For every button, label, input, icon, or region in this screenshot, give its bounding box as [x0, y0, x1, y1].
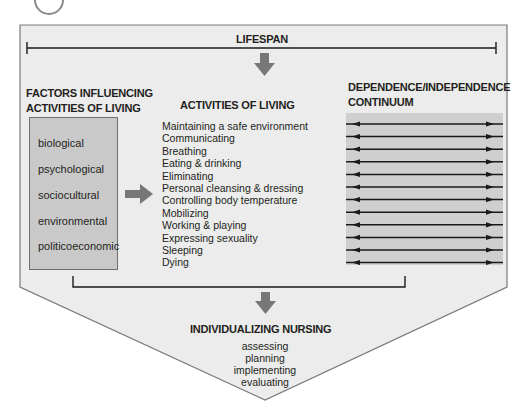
factors-box: biological psychological sociocultural e… — [29, 117, 118, 270]
lifespan-label: LIFESPAN — [236, 32, 288, 47]
activity-item: Eliminating — [162, 170, 308, 182]
activity-item: Controlling body temperature — [162, 194, 308, 206]
activity-item: Breathing — [162, 145, 308, 157]
activity-item: Mobilizing — [162, 207, 308, 219]
continuum-arrows — [346, 113, 503, 265]
nursing-step: planning — [200, 352, 330, 364]
double-arrow-icon — [346, 134, 503, 139]
double-arrow-icon — [346, 260, 503, 265]
nursing-step: assessing — [200, 340, 330, 352]
continuum-heading-line1: DEPENDENCE/INDEPENDENCE — [348, 80, 510, 95]
factors-heading-line1: FACTORS INFLUENCING — [26, 86, 153, 101]
activity-item: Communicating — [162, 132, 308, 144]
double-arrow-icon — [346, 121, 503, 126]
factors-heading-line2: ACTIVITIES OF LIVING — [26, 101, 153, 116]
factors-heading: FACTORS INFLUENCING ACTIVITIES OF LIVING — [26, 86, 153, 116]
double-arrow-icon — [346, 197, 503, 202]
double-arrow-icon — [346, 222, 503, 227]
nursing-steps: assessing planning implementing evaluati… — [200, 340, 330, 388]
double-arrow-icon — [346, 159, 503, 164]
activity-item: Sleeping — [162, 244, 308, 256]
double-arrow-icon — [346, 172, 503, 177]
factor-item: biological — [38, 137, 84, 149]
double-arrow-icon — [346, 247, 503, 252]
activity-item: Personal cleansing & dressing — [162, 182, 308, 194]
factor-item: politicoeconomic — [38, 240, 119, 252]
nursing-step: evaluating — [200, 376, 330, 388]
continuum-heading-line2: CONTINUUM — [348, 95, 510, 110]
activity-item: Maintaining a safe environment — [162, 120, 308, 132]
continuum-heading: DEPENDENCE/INDEPENDENCE CONTINUUM — [348, 80, 510, 110]
activity-item: Expressing sexuality — [162, 232, 308, 244]
nursing-heading: INDIVIDUALIZING NURSING — [190, 322, 331, 337]
nursing-step: implementing — [200, 364, 330, 376]
double-arrow-icon — [346, 184, 503, 189]
activity-item: Eating & drinking — [162, 157, 308, 169]
double-arrow-icon — [346, 235, 503, 240]
activity-item: Working & playing — [162, 219, 308, 231]
activities-list: Maintaining a safe environment Communica… — [162, 120, 308, 269]
factor-item: psychological — [38, 163, 104, 175]
activity-item: Dying — [162, 256, 308, 268]
continuum-box — [346, 113, 503, 265]
double-arrow-icon — [346, 210, 503, 215]
factor-item: sociocultural — [38, 189, 99, 201]
factor-item: environmental — [38, 215, 107, 227]
double-arrow-icon — [346, 147, 503, 152]
activities-heading: ACTIVITIES OF LIVING — [180, 98, 295, 113]
